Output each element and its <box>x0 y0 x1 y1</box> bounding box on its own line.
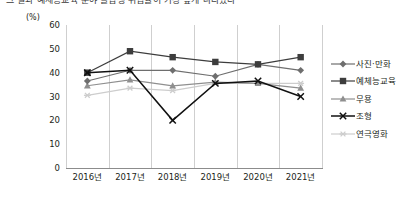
line-chart: (%) 0102030405060 2016년2017년2018년2019년20… <box>0 9 408 201</box>
cropped-heading-strip: 그 결과 예체능교육 분야 졸업생 취업률이 가장 높게 나타났다 <box>0 0 408 9</box>
cropped-heading-text: 그 결과 예체능교육 분야 졸업생 취업률이 가장 높게 나타났다 <box>6 0 236 6</box>
series-line <box>87 70 300 120</box>
legend-item-0[interactable]: 사진·만화 <box>330 55 408 73</box>
y-axis-tick-label: 40 <box>36 69 60 78</box>
legend-label: 무용 <box>356 94 372 104</box>
legend-label: 연극영화 <box>356 129 388 139</box>
x-axis-tick-label: 2021년 <box>275 173 327 182</box>
data-point-diamond <box>169 67 176 74</box>
legend-marker-asterisk-icon <box>330 128 356 140</box>
data-point-square <box>297 54 303 60</box>
legend-item-2[interactable]: 무용 <box>330 90 408 108</box>
data-point-diamond <box>212 73 219 80</box>
data-point-square <box>255 61 261 67</box>
series-3 <box>84 67 304 123</box>
series-line <box>87 51 300 72</box>
legend-marker-triangle-icon <box>330 93 356 105</box>
legend-item-1[interactable]: 예체능교육 <box>330 73 408 91</box>
data-point-diamond <box>340 60 347 67</box>
legend-label: 사진·만화 <box>356 59 391 69</box>
data-point-square <box>127 48 133 54</box>
y-axis-tick-label: 50 <box>36 45 60 54</box>
x-axis-line <box>66 168 323 169</box>
data-point-cross <box>169 117 175 123</box>
data-point-asterisk <box>169 88 176 93</box>
data-point-diamond <box>297 67 304 74</box>
data-point-cross <box>297 93 303 99</box>
y-axis-tick-label: 60 <box>36 21 60 30</box>
plot-area <box>66 25 322 168</box>
legend-item-3[interactable]: 조형 <box>330 108 408 126</box>
data-point-square <box>212 59 218 65</box>
y-axis-tick-label: 10 <box>36 140 60 149</box>
data-point-square <box>169 54 175 60</box>
series-0 <box>84 61 304 84</box>
legend-item-4[interactable]: 연극영화 <box>330 125 408 143</box>
legend-marker-square-icon <box>330 75 356 87</box>
legend-marker-cross-icon <box>330 110 356 122</box>
gridline <box>322 25 323 168</box>
legend-marker-diamond-icon <box>330 58 356 70</box>
data-point-square <box>340 78 346 84</box>
legend-label: 예체능교육 <box>356 76 396 86</box>
data-point-asterisk <box>84 93 91 98</box>
y-axis-tick-label: 0 <box>36 164 60 173</box>
legend-label: 조형 <box>356 111 372 121</box>
data-point-asterisk <box>340 131 347 136</box>
data-point-diamond <box>84 78 91 85</box>
series-layer <box>66 25 322 168</box>
data-point-asterisk <box>127 86 134 91</box>
y-axis-tick-label: 20 <box>36 116 60 125</box>
series-line <box>87 64 300 81</box>
chart-legend: 사진·만화예체능교육무용조형연극영화 <box>330 55 408 143</box>
y-axis-tick-label: 30 <box>36 93 60 102</box>
data-point-triangle <box>127 76 134 82</box>
